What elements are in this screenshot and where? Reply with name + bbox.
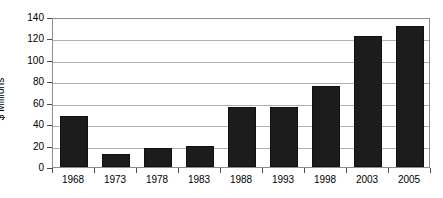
bar (186, 146, 214, 167)
bar (312, 86, 340, 167)
x-axis-tick-label: 1988 (220, 174, 262, 185)
x-axis-tick-label: 1993 (262, 174, 304, 185)
x-axis-tick-label: 2005 (388, 174, 430, 185)
y-axis-tick-label: 80 (22, 76, 44, 87)
y-axis-tick-label: 40 (22, 119, 44, 130)
x-axis-tick-mark (178, 168, 179, 173)
bar-chart: $ Millions 020406080100120140 1968197319… (0, 0, 443, 198)
x-axis-tick-label: 1978 (136, 174, 178, 185)
x-axis-tick-mark (220, 168, 221, 173)
y-axis-tick-label: 20 (22, 141, 44, 152)
y-axis-tick-label: 60 (22, 98, 44, 109)
x-axis-tick-label: 1983 (178, 174, 220, 185)
x-axis-tick-mark (136, 168, 137, 173)
x-axis-tick-mark (304, 168, 305, 173)
x-axis-tick-mark (52, 168, 53, 173)
x-axis-tick-mark (430, 168, 431, 173)
bar (354, 36, 382, 167)
y-axis-tick-label: 0 (22, 162, 44, 173)
x-axis-tick-mark (262, 168, 263, 173)
y-axis-tick-label: 140 (22, 12, 44, 23)
y-axis-tick-label: 120 (22, 33, 44, 44)
x-axis-tick-label: 1973 (94, 174, 136, 185)
x-axis-tick-mark (346, 168, 347, 173)
x-axis-tick-label: 1968 (52, 174, 94, 185)
bar (144, 148, 172, 167)
bar (60, 116, 88, 167)
x-axis-tick-mark (388, 168, 389, 173)
bar (270, 107, 298, 167)
y-axis-tick-label: 100 (22, 55, 44, 66)
x-axis-tick-mark (94, 168, 95, 173)
bar (228, 107, 256, 167)
bar (102, 154, 130, 167)
x-axis-tick-label: 2003 (346, 174, 388, 185)
x-axis-tick-label: 1998 (304, 174, 346, 185)
bar (396, 26, 424, 167)
plot-area (52, 18, 430, 168)
